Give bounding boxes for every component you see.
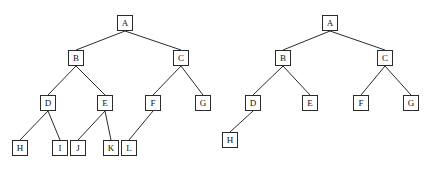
tree-edge-c-f xyxy=(153,66,181,95)
tree-edge-a-c xyxy=(330,31,385,50)
tree-node-d: D xyxy=(245,95,261,111)
tree-node-a: A xyxy=(117,15,133,31)
tree-node-b: B xyxy=(68,50,84,66)
diagram-canvas: ABCDEFGHIJKLABCDEFGH xyxy=(0,0,437,171)
tree-node-f: F xyxy=(145,95,161,111)
tree-node-h: H xyxy=(222,132,238,148)
tree-node-k: K xyxy=(103,140,119,156)
tree-node-h: H xyxy=(12,140,28,156)
tree-edge-b-d xyxy=(253,66,283,95)
tree-edge-a-b xyxy=(283,31,330,50)
tree-edge-f-l xyxy=(129,111,153,140)
tree-node-c: C xyxy=(173,50,189,66)
tree-edge-b-e xyxy=(283,66,310,95)
tree-edge-d-i xyxy=(48,111,60,140)
tree-edge-e-j xyxy=(78,111,105,140)
tree-edge-c-f xyxy=(361,66,385,95)
tree-edge-e-k xyxy=(105,111,111,140)
tree-edge-a-b xyxy=(76,31,125,50)
tree-node-j: J xyxy=(70,140,86,156)
tree-edge-a-c xyxy=(125,31,181,50)
tree-node-g: G xyxy=(403,95,419,111)
tree-edge-c-g xyxy=(385,66,411,95)
tree-edge-d-h xyxy=(20,111,48,140)
tree-node-g: G xyxy=(195,95,211,111)
tree-node-c: C xyxy=(377,50,393,66)
tree-node-b: B xyxy=(275,50,291,66)
tree-node-d: D xyxy=(40,95,56,111)
tree-node-i: I xyxy=(52,140,68,156)
tree-node-e: E xyxy=(302,95,318,111)
tree-node-a: A xyxy=(322,15,338,31)
tree-edge-c-g xyxy=(181,66,203,95)
tree-node-f: F xyxy=(353,95,369,111)
tree-edge-b-e xyxy=(76,66,105,95)
tree-node-l: L xyxy=(121,140,137,156)
tree-edge-d-h xyxy=(230,111,253,132)
tree-edge-b-d xyxy=(48,66,76,95)
tree-node-e: E xyxy=(97,95,113,111)
